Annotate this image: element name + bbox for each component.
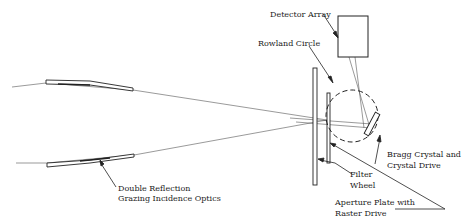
detector-array-label: Detector Array [270, 10, 331, 19]
bragg-crystal-label-2: Crystal Drive [387, 161, 441, 170]
lower-grazing-optic [47, 154, 134, 167]
spectrometer-diagram: Detector Array Rowland Circle Bragg Crys… [0, 0, 467, 222]
optics-label-1: Double Reflection [118, 184, 190, 193]
light-rays [12, 57, 372, 163]
rowland-circle [326, 90, 378, 142]
filter-wheel-label-2: Wheel [350, 181, 376, 190]
detector-array [338, 16, 368, 57]
aperture-plate-label-2: Raster Drive [335, 209, 387, 218]
aperture-plate-label-1: Aperture Plate with [334, 198, 415, 207]
bragg-crystal-label-1: Bragg Crystal and [387, 150, 461, 159]
filter-wheel [313, 68, 317, 185]
upper-grazing-optic [46, 80, 133, 91]
optics-label-2: Grazing Incidence Optics [118, 194, 221, 203]
rowland-circle-label: Rowland Circle [258, 39, 320, 48]
filter-wheel-label-1: Filter [350, 170, 373, 179]
